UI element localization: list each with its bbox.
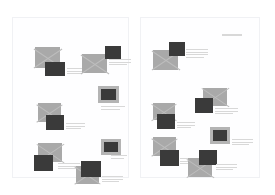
text-line	[58, 163, 80, 164]
text-line	[101, 106, 125, 107]
text-lines	[186, 49, 208, 59]
text-lines	[111, 155, 127, 160]
text-line	[177, 125, 195, 126]
thumbnail-block[interactable]	[157, 114, 175, 129]
text-line	[186, 52, 208, 53]
text-line	[186, 57, 204, 58]
text-line	[186, 54, 208, 55]
text-line	[232, 142, 253, 143]
text-line	[101, 109, 120, 110]
text-line	[215, 108, 238, 109]
thumbnail-block[interactable]	[46, 115, 64, 130]
thumbnail-block[interactable]	[160, 150, 179, 166]
text-line	[111, 155, 127, 156]
thumbnail-block[interactable]	[45, 62, 65, 76]
text-line	[102, 176, 123, 177]
text-line	[215, 111, 238, 112]
thumbnail-block[interactable]	[34, 155, 53, 171]
text-line	[232, 144, 249, 145]
text-line	[186, 49, 208, 50]
thumbnail-block[interactable]	[105, 46, 121, 59]
text-line	[216, 167, 237, 168]
text-line	[109, 64, 127, 65]
text-lines	[232, 139, 253, 147]
text-lines	[101, 106, 125, 111]
thumbnail-block[interactable]	[199, 150, 217, 165]
text-lines	[177, 122, 195, 130]
text-line	[232, 139, 253, 140]
text-lines	[216, 164, 237, 172]
image-placeholder[interactable]	[82, 54, 107, 73]
text-lines	[66, 123, 85, 131]
text-line	[216, 164, 237, 165]
text-line	[177, 122, 195, 123]
text-line	[177, 127, 191, 128]
text-lines	[215, 108, 238, 116]
thumbnail-block[interactable]	[98, 86, 119, 103]
thumbnail-block[interactable]	[81, 161, 101, 177]
document-preview-canvas	[0, 0, 275, 195]
header-rule	[222, 34, 242, 36]
thumbnail-block[interactable]	[195, 98, 213, 113]
right-page[interactable]	[140, 17, 260, 178]
text-line	[102, 179, 123, 180]
text-line	[215, 113, 233, 114]
text-line	[111, 158, 124, 159]
thumbnail-block[interactable]	[101, 139, 121, 155]
text-line	[102, 181, 119, 182]
text-line	[216, 169, 233, 170]
text-lines	[102, 176, 123, 184]
text-line	[66, 128, 81, 129]
left-page[interactable]	[12, 17, 129, 178]
text-line	[109, 62, 131, 63]
text-line	[66, 123, 85, 124]
thumbnail-block[interactable]	[169, 42, 185, 56]
text-line	[66, 126, 85, 127]
text-lines	[109, 59, 131, 67]
text-line	[58, 168, 76, 169]
text-line	[109, 59, 131, 60]
thumbnail-block[interactable]	[210, 127, 230, 144]
